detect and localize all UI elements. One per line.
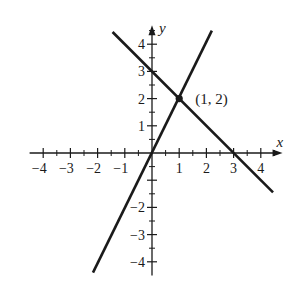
axes [30,25,283,275]
y-tick-label: −3 [130,228,145,243]
x-tick-label: 4 [257,161,264,176]
y-tick-label: 1 [138,119,145,134]
intersection-label: (1, 2) [195,91,228,108]
y-tick-label: 2 [138,92,145,107]
x-tick-label: −1 [113,161,128,176]
x-tick-label: −4 [32,161,47,176]
x-tick-label: 2 [203,161,210,176]
x-tick-label: −2 [86,161,101,176]
labels: −4−3−2−112344321−2−3−4xy(1, 2) [32,20,284,270]
y-tick-label: −4 [130,255,145,270]
y-axis-label: y [157,20,166,36]
line-y-equals-neg-x-plus-3 [113,32,273,192]
x-tick-label: 3 [230,161,237,176]
x-tick-label: −3 [59,161,74,176]
x-tick-label: 1 [176,161,183,176]
y-tick-label: −2 [130,200,145,215]
coordinate-plane-diagram: −4−3−2−112344321−2−3−4xy(1, 2) [0,0,295,288]
x-axis-label: x [276,134,284,150]
graph-lines [93,31,273,273]
y-tick-label: 4 [138,37,145,52]
intersection-point [176,95,183,102]
y-tick-label: 3 [138,64,145,79]
